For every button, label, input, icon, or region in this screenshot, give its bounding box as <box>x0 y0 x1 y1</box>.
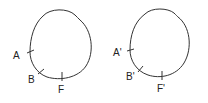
right-globe-outline <box>130 9 189 77</box>
right-label-f: F' <box>157 83 165 94</box>
eye-diagram: A B F A' B' F' <box>0 0 208 103</box>
left-label-a: A <box>13 50 20 61</box>
right-globe: A' B' F' <box>113 9 189 94</box>
left-globe: A B F <box>13 10 91 95</box>
left-globe-outline <box>30 10 91 79</box>
right-label-b: B' <box>126 71 135 82</box>
right-label-a: A' <box>113 47 122 58</box>
left-label-b: B <box>28 74 35 85</box>
left-label-f: F <box>58 84 64 95</box>
